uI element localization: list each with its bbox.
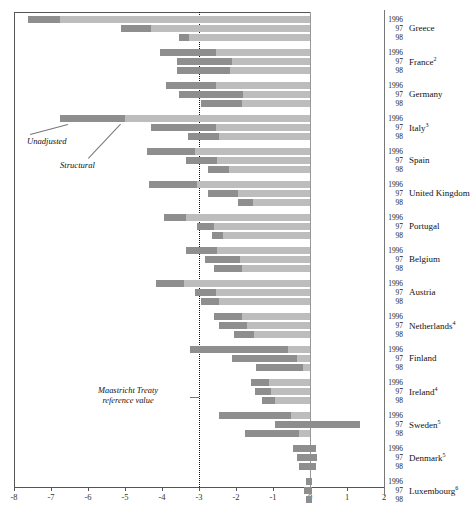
country-label: Germany	[409, 89, 443, 99]
bar-segment-structural	[310, 496, 312, 503]
bar-row	[0, 82, 384, 89]
bar-row	[0, 346, 384, 353]
bar-segment-structural	[214, 265, 242, 272]
country-label: Portugal	[409, 221, 440, 231]
bar-segment-structural	[255, 388, 272, 395]
year-label: 97	[389, 255, 403, 264]
year-label: 1996	[385, 114, 403, 123]
bar-segment-structural	[156, 280, 184, 287]
country-footnote-marker: 3	[426, 122, 429, 128]
annotation-maastricht-line1: Maastricht Treaty	[98, 386, 158, 395]
bar-row	[0, 199, 384, 206]
bar-row	[0, 421, 384, 428]
country-label: Spain	[409, 155, 430, 165]
bar-segment-structural	[190, 346, 288, 353]
year-label: 1996	[385, 279, 403, 288]
bar-segment-structural	[212, 232, 223, 239]
bar-row	[0, 91, 384, 98]
year-label: 1996	[385, 213, 403, 222]
bar-segment-structural	[201, 100, 242, 107]
bar-row	[0, 256, 384, 263]
bar-segment-unadjusted	[212, 232, 310, 239]
bar-row	[0, 157, 384, 164]
bar-row	[0, 280, 384, 287]
year-label: 97	[389, 354, 403, 363]
bar-row	[0, 430, 384, 437]
year-label: 1996	[385, 48, 403, 57]
country-label: Ireland4	[409, 386, 437, 397]
country-footnote-marker: 2	[434, 56, 437, 62]
bar-segment-structural	[310, 487, 312, 494]
country-label: Finland	[409, 353, 437, 363]
year-label: 98	[389, 363, 403, 372]
country-footnote-marker: 4	[452, 320, 455, 326]
bar-row	[0, 355, 384, 362]
year-label: 97	[389, 387, 403, 396]
country-label: Greece	[409, 23, 434, 33]
year-label: 97	[389, 123, 403, 132]
bar-row	[0, 49, 384, 56]
bar-segment-structural	[121, 25, 151, 32]
year-label: 1996	[385, 312, 403, 321]
country-label: Sweden5	[409, 419, 441, 430]
year-label: 97	[389, 189, 403, 198]
year-label: 98	[389, 165, 403, 174]
bar-segment-structural	[310, 454, 317, 461]
country-label: Austria	[409, 287, 436, 297]
bar-row	[0, 379, 384, 386]
bar-segment-structural	[177, 67, 231, 74]
country-label: Netherlands4	[409, 320, 455, 331]
country-label: Belgium	[409, 254, 440, 264]
bar-segment-structural	[160, 49, 216, 56]
bar-segment-structural	[28, 16, 60, 23]
year-label: 1996	[385, 378, 403, 387]
bar-segment-structural	[164, 214, 186, 221]
bar-row	[0, 58, 384, 65]
bar-row	[0, 25, 384, 32]
bar-segment-structural	[195, 289, 215, 296]
bar-segment-structural	[147, 148, 195, 155]
bar-segment-structural	[238, 199, 253, 206]
year-label: 98	[389, 231, 403, 240]
year-label: 98	[389, 495, 403, 504]
chart-top-border	[14, 12, 310, 13]
year-label: 98	[389, 396, 403, 405]
bar-row	[0, 34, 384, 41]
year-label: 97	[389, 420, 403, 429]
year-label: 1996	[385, 411, 403, 420]
bar-segment-structural	[234, 331, 254, 338]
year-label: 97	[389, 453, 403, 462]
bar-row	[0, 247, 384, 254]
year-label: 98	[389, 429, 403, 438]
year-label: 1996	[385, 147, 403, 156]
bar-row	[0, 166, 384, 173]
bar-row	[0, 289, 384, 296]
bar-segment-structural	[232, 355, 297, 362]
year-label: 1996	[385, 444, 403, 453]
annotation-structural: Structural	[60, 160, 95, 170]
bar-row	[0, 16, 384, 23]
country-label: Luxembourg6	[409, 485, 458, 496]
bar-segment-structural	[275, 421, 310, 428]
bar-segment-structural	[179, 91, 244, 98]
bar-row	[0, 496, 384, 503]
year-label: 98	[389, 462, 403, 471]
bar-row	[0, 115, 384, 122]
bar-segment-structural	[188, 133, 219, 140]
bar-segment-structural	[262, 397, 275, 404]
bar-row	[0, 223, 384, 230]
bar-segment-structural	[179, 34, 189, 41]
bar-segment-structural	[201, 298, 220, 305]
bar-row	[0, 232, 384, 239]
year-label: 98	[389, 264, 403, 273]
year-label: 97	[389, 24, 403, 33]
bar-segment-structural	[208, 190, 238, 197]
bar-row	[0, 322, 384, 329]
bar-row	[0, 298, 384, 305]
bar-row	[0, 214, 384, 221]
country-footnote-marker: 6	[455, 485, 458, 491]
bar-segment-structural	[310, 421, 360, 428]
annotation-maastricht: Maastricht Treaty reference value	[68, 386, 188, 406]
bar-segment-structural	[60, 115, 125, 122]
year-label: 1996	[385, 15, 403, 24]
